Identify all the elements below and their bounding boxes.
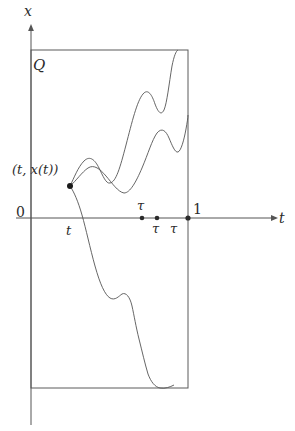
axis-label-x: x <box>24 4 32 18</box>
middle-trajectory-curve <box>70 115 188 193</box>
axis-origin-label: 0 <box>16 205 25 219</box>
point-label-t-xt: (t, x(t)) <box>12 163 58 176</box>
tick-label-tau3: τ <box>170 222 177 235</box>
trajectory-origin-dot <box>67 183 73 189</box>
tick-label-tau1: τ <box>137 199 144 212</box>
horizontal-axis-arrow-icon <box>271 215 278 221</box>
tick-dot-tau2 <box>155 216 160 221</box>
figure-canvas: x t Q (t, x(t)) 0 1 t τ τ τ <box>0 0 295 431</box>
tick-dot-one <box>185 215 190 220</box>
upper-trajectory-curve <box>70 50 178 186</box>
tick-label-one: 1 <box>193 202 202 216</box>
region-label-q: Q <box>33 58 45 73</box>
region-q-rect <box>31 50 188 388</box>
axis-label-t: t <box>279 211 285 225</box>
vertical-axis-arrow-icon <box>28 24 34 31</box>
tick-dot-tau1 <box>140 216 145 221</box>
tick-label-t: t <box>66 224 71 237</box>
tick-label-tau2: τ <box>152 222 159 235</box>
